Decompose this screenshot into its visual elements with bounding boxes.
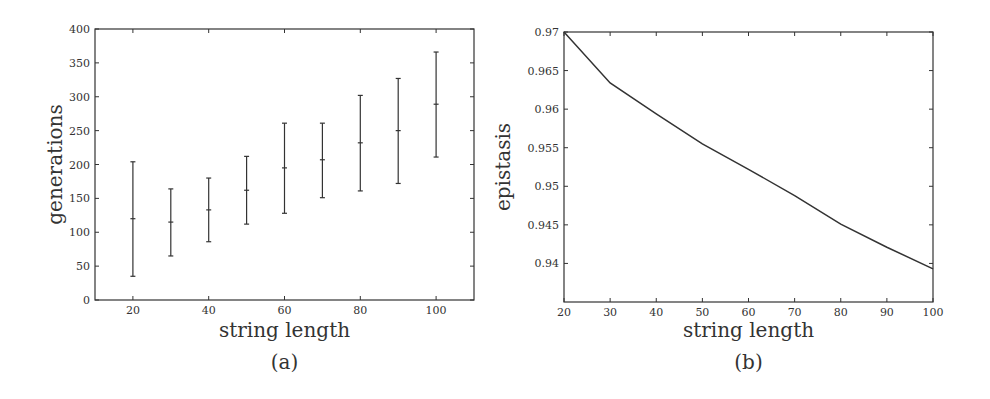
x-tick-label: 90 [880, 306, 894, 319]
epistasis-line [564, 32, 933, 269]
y-tick-label: 0.94 [535, 257, 560, 270]
panel-caption: (b) [734, 350, 762, 374]
x-tick-label: 20 [126, 304, 140, 317]
plot-frame [564, 32, 933, 302]
error-bar [320, 123, 325, 198]
x-tick-label: 80 [353, 304, 367, 317]
y-tick-label: 100 [69, 226, 90, 239]
y-tick-label: 0.945 [528, 219, 560, 232]
error-bar [282, 123, 287, 213]
chart-panel-b: 20304050607080901000.940.9450.950.9550.9… [491, 26, 944, 374]
y-tick-label: 400 [69, 23, 90, 36]
y-tick-label: 300 [69, 91, 90, 104]
x-tick-label: 100 [923, 306, 944, 319]
y-tick-label: 0.965 [528, 65, 560, 78]
y-tick-label: 150 [69, 192, 90, 205]
y-axis-label: epistasis [491, 123, 515, 211]
line-plot: 20304050607080901000.940.9450.950.9550.9… [528, 26, 944, 319]
x-tick-label: 40 [649, 306, 663, 319]
error-bar [396, 78, 401, 183]
errorbar-plot: 20406080100050100150200250300350400 [69, 23, 474, 317]
y-tick-label: 0.97 [535, 26, 560, 39]
error-bar [358, 95, 363, 191]
error-bar [130, 162, 135, 276]
y-tick-label: 0.96 [535, 103, 560, 116]
x-tick-label: 60 [278, 304, 292, 317]
x-tick-label: 20 [557, 306, 571, 319]
x-tick-label: 40 [202, 304, 216, 317]
error-bar [244, 156, 249, 224]
error-bar [168, 189, 173, 256]
y-tick-label: 50 [76, 260, 90, 273]
x-axis-label: string length [219, 318, 350, 342]
y-tick-label: 0.955 [528, 142, 560, 155]
error-bar [206, 178, 211, 242]
x-tick-label: 30 [603, 306, 617, 319]
y-tick-label: 0.95 [535, 180, 560, 193]
y-axis-label: generations [43, 104, 67, 224]
x-tick-label: 80 [834, 306, 848, 319]
error-bar [434, 52, 439, 157]
y-tick-label: 250 [69, 125, 90, 138]
chart-panel-a: 20406080100050100150200250300350400 gene… [43, 23, 474, 374]
figure: 20406080100050100150200250300350400 gene… [0, 0, 990, 399]
x-tick-label: 100 [426, 304, 447, 317]
y-tick-label: 350 [69, 57, 90, 70]
panel-caption: (a) [271, 350, 299, 374]
y-tick-label: 200 [69, 159, 90, 172]
y-tick-label: 0 [83, 294, 90, 307]
x-axis-label: string length [683, 318, 814, 342]
